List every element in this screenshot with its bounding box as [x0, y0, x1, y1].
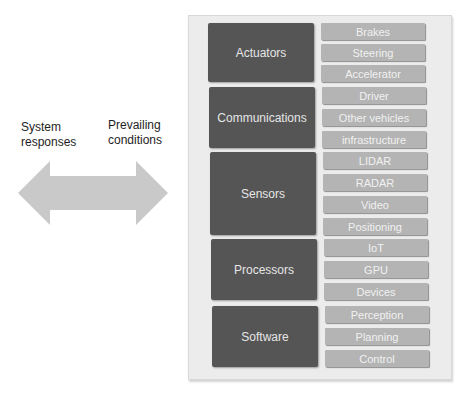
item-other-vehicles: Other vehicles — [322, 109, 426, 126]
item-infrastructure: infrastructure — [322, 131, 426, 148]
item-steering: Steering — [321, 44, 425, 61]
group-communications: Communications — [209, 87, 315, 148]
item-video: Video — [323, 196, 427, 213]
prevailing-conditions-line1: Prevailing — [108, 118, 162, 133]
item-iot: IoT — [324, 239, 428, 256]
item-positioning: Positioning — [323, 218, 427, 235]
system-responses-label: System responses — [21, 120, 76, 150]
component-panel: Actuators Brakes Steering Accelerator Co… — [188, 15, 452, 380]
prevailing-conditions-line2: conditions — [108, 133, 162, 148]
item-accelerator: Accelerator — [321, 65, 425, 82]
item-gpu: GPU — [324, 261, 428, 278]
group-software: Software — [212, 306, 318, 367]
item-planning: Planning — [325, 328, 429, 345]
item-perception: Perception — [325, 306, 429, 323]
item-devices: Devices — [324, 283, 428, 300]
prevailing-conditions-label: Prevailing conditions — [108, 118, 162, 148]
item-brakes: Brakes — [321, 23, 425, 40]
group-processors: Processors — [211, 239, 317, 300]
group-sensors: Sensors — [210, 152, 316, 235]
item-control: Control — [325, 350, 429, 367]
item-driver: Driver — [322, 87, 426, 104]
item-radar: RADAR — [323, 174, 427, 191]
item-lidar: LIDAR — [323, 152, 427, 169]
group-actuators: Actuators — [208, 23, 314, 82]
system-responses-line2: responses — [21, 135, 76, 150]
system-responses-line1: System — [21, 120, 76, 135]
double-arrow-icon — [18, 160, 168, 226]
